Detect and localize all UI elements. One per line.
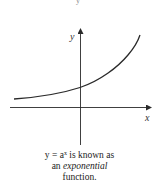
exponential-curve bbox=[14, 35, 140, 99]
caption: y = ax is known as an exponential functi… bbox=[0, 148, 159, 183]
exponential-graph: y x bbox=[0, 0, 159, 145]
caption-line-3: function. bbox=[0, 172, 159, 183]
x-axis-label: x bbox=[144, 112, 150, 123]
caption-line-1: y = ax is known as bbox=[0, 148, 159, 161]
caption-line-2: an exponential bbox=[0, 161, 159, 172]
y-axis-label: y bbox=[69, 31, 75, 42]
